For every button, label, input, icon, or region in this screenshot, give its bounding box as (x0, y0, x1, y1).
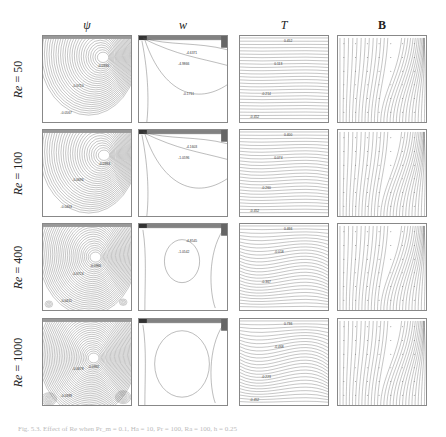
svg-text:-0.0678: -0.0678 (72, 367, 83, 371)
row-label-re50: Re = 50 (4, 35, 34, 123)
re-value: = 100 (12, 151, 26, 182)
re-symbol: Re (12, 182, 26, 195)
svg-text:-0.0936: -0.0936 (98, 64, 109, 68)
contour-plot: 0.466-0.018-0.367 (240, 224, 328, 310)
svg-text:-0.0966: -0.0966 (90, 264, 101, 268)
svg-text:-0.0992: -0.0992 (88, 365, 99, 369)
svg-text:-0.367: -0.367 (262, 280, 272, 284)
contour-plot: -0.0936-0.0710-0.0567 (43, 36, 131, 122)
svg-text:-1.0596: -1.0596 (178, 156, 189, 160)
panel-T-re-400: 0.466-0.018-0.367 (239, 223, 329, 311)
panel-w-re-1000 (138, 318, 228, 406)
panel-B-re-1000 (337, 318, 427, 406)
panel-psi-re-50: -0.0936-0.0710-0.0567 (42, 35, 132, 123)
field-lines-plot (338, 319, 426, 405)
svg-text:-0.452: -0.452 (250, 209, 260, 213)
svg-text:-0.452: -0.452 (250, 115, 260, 119)
re-value: = 400 (12, 245, 26, 276)
contour-plot: -0.0992-0.0678-0.0399 (43, 319, 131, 405)
panel-T-re-100: 0.4000.074-0.260-0.452 (239, 129, 329, 217)
row-label-re100: Re = 100 (4, 129, 34, 217)
contour-plot: 0.4520.113-0.214-0.452 (240, 36, 328, 122)
row-label-re400: Re = 400 (4, 223, 34, 311)
panel-B-re-400 (337, 223, 427, 311)
panel-psi-re-100: -0.0994-0.0696-0.0463 (42, 129, 132, 217)
field-lines-plot (338, 224, 426, 310)
contour-plot: -0.0994-0.0696-0.0463 (43, 130, 131, 216)
svg-text:-0.452: -0.452 (250, 398, 260, 402)
contour-plot: -4.6371-4.9866-0.1711 (139, 36, 227, 122)
svg-text:0.736: 0.736 (284, 322, 292, 326)
field-lines-plot (338, 36, 426, 122)
svg-text:-0.0724: -0.0724 (72, 272, 83, 276)
panel-w-re-50: -4.6371-4.9866-0.1711 (138, 35, 228, 123)
panel-w-re-100: -4.1603-1.0596 (138, 129, 228, 217)
svg-text:-1.0542: -1.0542 (178, 250, 189, 254)
svg-text:-0.1711: -0.1711 (183, 92, 194, 96)
svg-text:0.400: 0.400 (284, 133, 292, 137)
contour-plot (139, 319, 227, 405)
figure-caption: Fig. 5.3. Effect of Re when Pr_m = 0.1, … (18, 425, 438, 433)
panel-w-re-400: -4.8545-1.0542 (138, 223, 228, 311)
svg-text:-0.260: -0.260 (262, 186, 272, 190)
column-header-w: w (138, 18, 228, 33)
panel-T-re-50: 0.4520.113-0.214-0.452 (239, 35, 329, 123)
svg-text:0.452: 0.452 (284, 39, 292, 43)
column-header-psi: ψ (42, 18, 132, 33)
panel-T-re-1000: 0.736-0.468-0.223-0.452 (239, 318, 329, 406)
panel-B-re-100 (337, 129, 427, 217)
svg-text:-0.0463: -0.0463 (61, 205, 72, 209)
svg-text:0.113: 0.113 (274, 62, 282, 66)
contour-plot: -4.1603-1.0596 (139, 130, 227, 216)
svg-text:-0.0710: -0.0710 (72, 84, 83, 88)
re-symbol: Re (12, 85, 26, 98)
row-label-re1000: Re = 1000 (4, 318, 34, 406)
svg-text:-0.0415: -0.0415 (61, 299, 72, 303)
svg-text:-0.018: -0.018 (274, 250, 284, 254)
contour-plot: 0.736-0.468-0.223-0.452 (240, 319, 328, 405)
svg-text:0.466: 0.466 (284, 227, 292, 231)
re-value: = 1000 (12, 337, 26, 374)
column-header-B: B (337, 18, 427, 33)
contour-plot: -0.0966-0.0724-0.0415 (43, 224, 131, 310)
panel-psi-re-1000: -0.0992-0.0678-0.0399 (42, 318, 132, 406)
svg-text:-0.468: -0.468 (274, 345, 284, 349)
re-symbol: Re (12, 374, 26, 387)
svg-text:-4.9866: -4.9866 (178, 62, 189, 66)
panel-B-re-50 (337, 35, 427, 123)
panel-psi-re-400: -0.0966-0.0724-0.0415 (42, 223, 132, 311)
svg-text:-0.214: -0.214 (262, 92, 272, 96)
svg-text:0.074: 0.074 (274, 156, 282, 160)
svg-text:-4.8545: -4.8545 (186, 239, 197, 243)
svg-text:-0.0567: -0.0567 (61, 111, 72, 115)
svg-text:-0.223: -0.223 (262, 375, 272, 379)
svg-text:-0.0399: -0.0399 (61, 394, 72, 398)
contour-plot: 0.4000.074-0.260-0.452 (240, 130, 328, 216)
svg-text:-4.1603: -4.1603 (186, 145, 197, 149)
svg-text:-4.6371: -4.6371 (186, 51, 197, 55)
svg-text:-0.0696: -0.0696 (72, 178, 83, 182)
contour-plot: -4.8545-1.0542 (139, 224, 227, 310)
column-header-T: T (239, 18, 329, 33)
field-lines-plot (338, 130, 426, 216)
re-symbol: Re (12, 276, 26, 289)
re-value: = 50 (12, 60, 26, 85)
svg-text:-0.0994: -0.0994 (99, 162, 110, 166)
